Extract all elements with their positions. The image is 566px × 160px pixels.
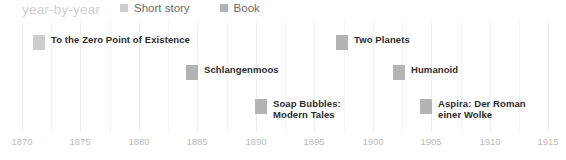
event-label-line2: Modern Tales [273,109,341,120]
event-label-line2: einer Wolke [438,109,526,120]
event-label: Two Planets [354,34,410,45]
axis-tick-label: 1875 [69,136,90,147]
event-marker-icon [336,35,348,50]
x-axis: 1870187518801885189018951900190519101915 [0,132,566,160]
square-swatch-icon [120,4,128,12]
event-label: Soap Bubbles:Modern Tales [273,98,341,120]
axis-tick-label: 1900 [362,136,383,147]
event-label-line1: To the Zero Point of Existence [51,34,190,45]
legend-item-book[interactable]: Book [220,2,260,14]
axis-tick-label: 1895 [303,136,324,147]
event-marker-icon [33,35,45,50]
timeline-event[interactable]: Soap Bubbles:Modern Tales [255,98,341,120]
event-marker-icon [255,99,267,114]
gridline-major [22,22,23,132]
timeline-event[interactable]: Two Planets [336,34,410,50]
event-label: Schlangenmoos [204,64,279,75]
timeline-event[interactable]: Schlangenmoos [186,64,279,80]
legend-item-label: Book [234,2,260,14]
event-marker-icon [420,99,432,114]
event-label: Aspira: Der Romaneiner Wolke [438,98,526,120]
event-label-line1: Humanoid [411,64,458,75]
axis-tick-label: 1870 [11,136,32,147]
chart-header: year-by-year Short storyBook [0,0,566,22]
gridline-major [548,22,549,132]
legend-item-short-story[interactable]: Short story [120,2,190,14]
timeline-event[interactable]: To the Zero Point of Existence [33,34,190,50]
timeline-event[interactable]: Aspira: Der Romaneiner Wolke [420,98,526,120]
axis-tick-label: 1890 [245,136,266,147]
event-label-line1: Soap Bubbles: [273,98,341,109]
event-label: Humanoid [411,64,458,75]
event-label: To the Zero Point of Existence [51,34,190,45]
chart-legend: Short storyBook [120,2,260,14]
axis-tick-label: 1910 [479,136,500,147]
year-by-year-timeline-chart: year-by-year Short storyBook To the Zero… [0,0,566,160]
legend-item-label: Short story [134,2,190,14]
plot-area: To the Zero Point of ExistenceTwo Planet… [0,22,566,132]
axis-tick-label: 1905 [420,136,441,147]
axis-tick-label: 1880 [128,136,149,147]
chart-title: year-by-year [22,2,100,17]
event-label-line1: Schlangenmoos [204,64,279,75]
event-marker-icon [393,65,405,80]
timeline-event[interactable]: Humanoid [393,64,458,80]
axis-tick-label: 1915 [537,136,558,147]
axis-tick-label: 1885 [186,136,207,147]
event-marker-icon [186,65,198,80]
event-label-line1: Two Planets [354,34,410,45]
event-label-line1: Aspira: Der Roman [438,98,526,109]
square-swatch-icon [220,4,228,12]
